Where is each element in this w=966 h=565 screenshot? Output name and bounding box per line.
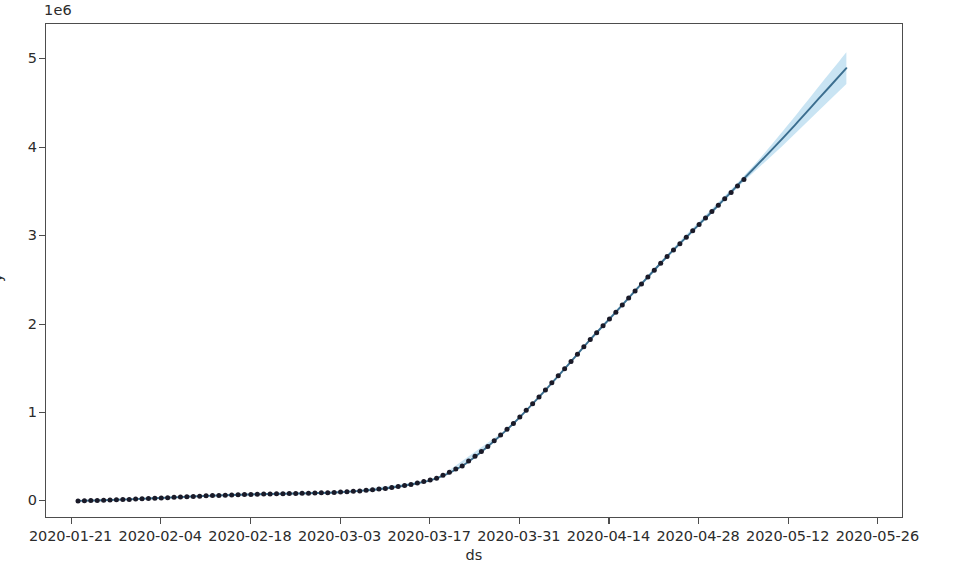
observed-point: [268, 491, 273, 496]
observed-point: [569, 359, 574, 364]
observed-point: [280, 491, 285, 496]
observed-point: [191, 494, 196, 499]
y-axis-tick-label: 5: [11, 50, 37, 66]
x-axis-tick-label: 2020-04-14: [567, 528, 650, 544]
observed-point: [594, 330, 599, 335]
observed-point: [479, 449, 484, 454]
observed-point: [741, 177, 746, 182]
observed-point: [357, 488, 362, 493]
observed-point: [236, 492, 241, 497]
y-axis-tick-label: 4: [11, 139, 37, 155]
observed-point: [159, 495, 164, 500]
observed-point: [645, 275, 650, 280]
x-axis-tick-mark: [698, 518, 699, 524]
observed-point: [152, 496, 157, 501]
observed-point: [300, 491, 305, 496]
observed-point: [229, 492, 234, 497]
x-axis-title: ds: [466, 547, 483, 563]
observed-point: [549, 380, 554, 385]
observed-point: [607, 317, 612, 322]
observed-point: [389, 485, 394, 490]
observed-point: [108, 498, 113, 503]
x-axis-tick-label: 2020-02-18: [208, 528, 291, 544]
y-axis-tick-label: 1: [11, 404, 37, 420]
observed-point: [114, 497, 119, 502]
observed-point: [639, 281, 644, 286]
observed-point: [466, 459, 471, 464]
observed-point: [575, 352, 580, 357]
observed-point: [165, 495, 170, 500]
x-axis-tick-mark: [788, 518, 789, 524]
x-axis-tick-mark: [340, 518, 341, 524]
observed-point: [210, 493, 215, 498]
x-axis-tick-mark: [877, 518, 878, 524]
observed-point: [261, 492, 266, 497]
observed-point: [505, 427, 510, 432]
observed-point: [633, 288, 638, 293]
observed-point: [735, 183, 740, 188]
y-axis-offset-label: 1e6: [44, 2, 72, 18]
observed-point: [492, 438, 497, 443]
observed-point: [498, 433, 503, 438]
observed-point: [729, 190, 734, 195]
y-axis-tick-mark: [39, 500, 45, 501]
observed-point: [626, 296, 631, 301]
observed-point: [658, 261, 663, 266]
observed-point: [556, 373, 561, 378]
observed-point: [709, 209, 714, 214]
y-axis-tick-label: 2: [11, 316, 37, 332]
observed-point: [376, 487, 381, 492]
x-axis-tick-mark: [71, 518, 72, 524]
observed-point: [440, 473, 445, 478]
observed-point: [351, 489, 356, 494]
observed-point: [82, 498, 87, 503]
forecast-chart-figure: 1e6 012345 y ds 2020-01-212020-02-042020…: [0, 0, 966, 565]
observed-point: [101, 498, 106, 503]
x-axis-tick-label: 2020-03-03: [298, 528, 381, 544]
observed-point: [524, 408, 529, 413]
observed-point: [402, 483, 407, 488]
observed-point: [184, 494, 189, 499]
observed-point: [383, 486, 388, 491]
observed-point: [370, 487, 375, 492]
observed-point: [197, 494, 202, 499]
y-axis-title: y: [0, 274, 5, 283]
observed-point: [671, 248, 676, 253]
observed-point: [248, 492, 253, 497]
observed-point: [428, 477, 433, 482]
observed-point: [242, 492, 247, 497]
observed-point: [453, 467, 458, 472]
observed-point: [178, 495, 183, 500]
observed-point: [127, 497, 132, 502]
observed-point: [697, 222, 702, 227]
observed-point: [223, 493, 228, 498]
observed-point: [140, 496, 145, 501]
x-axis-tick-label: 2020-01-21: [29, 528, 112, 544]
observed-point: [146, 496, 151, 501]
x-axis-tick-mark: [429, 518, 430, 524]
observed-point: [133, 497, 138, 502]
observed-point: [703, 216, 708, 221]
observed-point: [255, 492, 260, 497]
y-axis-tick-mark: [39, 412, 45, 413]
observed-point: [293, 491, 298, 496]
observed-point: [415, 480, 420, 485]
x-axis-tick-label: 2020-04-28: [656, 528, 739, 544]
observed-point: [274, 491, 279, 496]
observed-point: [665, 254, 670, 259]
observed-point: [319, 490, 324, 495]
observed-point: [447, 470, 452, 475]
observed-points: [76, 177, 747, 503]
observed-point: [716, 203, 721, 208]
observed-point: [120, 497, 125, 502]
x-axis-tick-label: 2020-02-04: [119, 528, 202, 544]
x-axis-tick-mark: [160, 518, 161, 524]
observed-point: [408, 482, 413, 487]
forecast-line: [78, 68, 846, 501]
uncertainty-band: [78, 52, 846, 501]
observed-point: [690, 228, 695, 233]
x-axis-tick-label: 2020-05-26: [836, 528, 919, 544]
observed-point: [460, 463, 465, 468]
observed-point: [216, 493, 221, 498]
observed-point: [287, 491, 292, 496]
